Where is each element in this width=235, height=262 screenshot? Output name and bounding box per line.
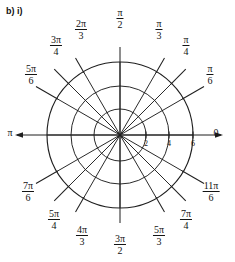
angle-label-numerator: 11π (203, 181, 220, 192)
angle-label-numerator: π (182, 35, 189, 46)
angle-label-300deg: 5π3 (153, 225, 165, 247)
angle-label-numerator: 3π (50, 35, 62, 46)
angle-label-denominator: 2 (114, 245, 126, 256)
leader-line-225 (54, 186, 69, 201)
radial-tick-label-4: 4 (167, 139, 171, 148)
leader-line-240 (76, 197, 85, 212)
angle-label-330deg: 11π6 (203, 181, 220, 203)
angle-label-denominator: 4 (50, 46, 62, 57)
angle-label-numerator: 5π (48, 209, 60, 220)
leader-line-330 (182, 171, 204, 184)
leader-line-120 (76, 58, 85, 73)
angle-label-denominator: 6 (25, 75, 37, 86)
polar-axes (15, 47, 223, 223)
angle-label-numerator: π (206, 64, 213, 75)
leader-line-210 (36, 171, 58, 184)
angle-label-numerator: 3π (114, 234, 126, 245)
angle-label-numerator: 7π (22, 181, 34, 192)
leader-line-300 (156, 197, 165, 212)
angle-label-45deg: π4 (182, 35, 189, 57)
angle-label-210deg: 7π6 (22, 181, 34, 203)
angle-label-denominator: 4 (180, 220, 192, 231)
leader-line-315 (171, 186, 186, 201)
angle-label-numerator: π (155, 19, 162, 30)
angle-label-denominator: 3 (155, 30, 162, 41)
angle-label-numerator: 5π (153, 225, 165, 236)
angle-label-240deg: 4π3 (76, 225, 88, 247)
angle-label-0deg: 0 (214, 128, 219, 138)
angle-label-180deg: π (7, 128, 12, 138)
axis-arrow-left-icon (15, 132, 23, 138)
leader-line-135 (54, 69, 69, 84)
leader-line-45 (171, 69, 186, 84)
angle-label-denominator: 3 (75, 30, 87, 41)
radial-tick-label-2: 2 (144, 139, 148, 148)
angle-label-225deg: 5π4 (48, 209, 60, 231)
polar-grid-figure (0, 0, 235, 262)
leader-line-150 (36, 87, 58, 100)
angle-label-denominator: 4 (48, 220, 60, 231)
angle-label-120deg: 2π3 (75, 19, 87, 41)
angle-label-30deg: π6 (206, 64, 213, 86)
angle-label-numerator: π (116, 8, 123, 19)
angle-label-denominator: 6 (206, 75, 213, 86)
angle-label-denominator: 6 (22, 192, 34, 203)
angle-label-numerator: 4π (76, 225, 88, 236)
angle-label-denominator: 6 (203, 192, 220, 203)
radial-tick-label-6: 6 (191, 139, 195, 148)
angle-label-numerator: 2π (75, 19, 87, 30)
angle-label-text: 0 (214, 127, 219, 138)
angle-label-numerator: 5π (25, 64, 37, 75)
angle-label-text: π (7, 127, 12, 138)
leader-line-60 (156, 58, 165, 73)
angle-label-90deg: π2 (116, 8, 123, 30)
angle-label-315deg: 7π4 (180, 209, 192, 231)
angle-label-denominator: 4 (182, 46, 189, 57)
angle-label-150deg: 5π6 (25, 64, 37, 86)
angle-label-60deg: π3 (155, 19, 162, 41)
leader-line-30 (182, 87, 204, 100)
angle-label-denominator: 3 (76, 236, 88, 247)
angle-label-numerator: 7π (180, 209, 192, 220)
angle-label-270deg: 3π2 (114, 234, 126, 256)
angle-label-denominator: 2 (116, 19, 123, 30)
angle-label-135deg: 3π4 (50, 35, 62, 57)
angle-label-denominator: 3 (153, 236, 165, 247)
